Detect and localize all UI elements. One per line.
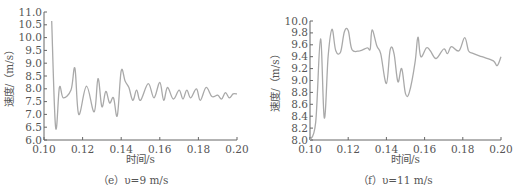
y-axis-title: 速度/（m/s） (3, 45, 15, 107)
y-tick-label: 8.5 (25, 70, 42, 82)
y-tick-label: 9.6 (291, 38, 308, 50)
y-tick-label: 8.6 (291, 98, 308, 110)
x-tick-label: 0.18 (451, 143, 474, 155)
x-tick-label: 0.10 (32, 143, 55, 155)
y-tick-label: 9.8 (291, 26, 308, 38)
y-tick-label: 11.0 (19, 6, 42, 18)
chart-panel-f: 8.08.28.48.68.89.09.29.49.69.810.00.100.… (258, 0, 515, 190)
x-tick-label: 0.12 (71, 143, 94, 155)
x-axis-title: 时间/s (126, 153, 155, 165)
x-tick-label: 0.10 (298, 143, 321, 155)
velocity-line (310, 28, 501, 140)
y-tick-label: 9.4 (291, 50, 308, 62)
y-tick-label: 7.0 (25, 108, 42, 120)
velocity-chart-e: 6.06.57.07.58.08.59.09.510.010.511.00.10… (0, 0, 258, 190)
y-tick-label: 9.0 (25, 57, 42, 69)
chart-caption-f: （f）υ=11 m/s (358, 172, 433, 187)
x-tick-label: 0.20 (225, 143, 248, 155)
y-tick-label: 6.5 (25, 121, 42, 133)
x-tick-label: 0.18 (187, 143, 210, 155)
y-tick-label: 9.0 (291, 74, 308, 86)
velocity-line (52, 21, 237, 129)
x-tick-label: 0.20 (489, 143, 512, 155)
y-tick-label: 8.4 (291, 110, 308, 122)
y-tick-label: 8.8 (291, 86, 308, 98)
y-tick-label: 8.0 (25, 82, 42, 94)
y-tick-label: 8.2 (291, 122, 308, 134)
y-tick-label: 10.5 (19, 18, 42, 30)
x-tick-label: 0.12 (337, 143, 360, 155)
y-tick-label: 9.5 (25, 44, 42, 56)
y-tick-label: 10.0 (285, 15, 308, 27)
y-tick-label: 9.2 (291, 62, 308, 74)
y-tick-label: 7.5 (25, 95, 42, 107)
y-axis-title: 速度/（m/s） (269, 49, 281, 111)
chart-caption-e: （e）υ=9 m/s (98, 172, 168, 187)
y-tick-label: 10.0 (19, 31, 42, 43)
velocity-chart-f: 8.08.28.48.68.89.09.29.49.69.810.00.100.… (258, 0, 515, 190)
chart-panel-e: 6.06.57.07.58.08.59.09.510.010.511.00.10… (0, 0, 258, 190)
x-axis-title: 时间/s (391, 153, 420, 165)
